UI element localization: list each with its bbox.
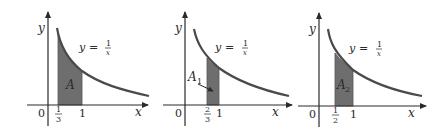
svg-text:x: x [106, 49, 110, 57]
svg-text:1: 1 [243, 39, 248, 48]
panel-1: y x 0 1 3 1 A y = 1 x [27, 12, 149, 126]
y-axis-label: y [308, 22, 316, 36]
svg-text:y: y [78, 41, 86, 54]
svg-text:2: 2 [333, 116, 338, 125]
origin-label: 0 [38, 107, 45, 120]
origin-label: 0 [309, 108, 316, 121]
equation-label: y = 1 x [348, 40, 382, 58]
x-axis-label: x [272, 105, 279, 119]
region-label-a: A [65, 78, 75, 92]
panel-3: y x 0 1 2 1 A 2 y = 1 x [298, 13, 426, 127]
svg-text:A: A [187, 70, 197, 84]
svg-text:y: y [214, 41, 222, 54]
svg-text:y: y [348, 42, 356, 55]
svg-text:1: 1 [56, 105, 61, 114]
svg-text:1: 1 [333, 106, 338, 115]
svg-text:x: x [377, 50, 381, 58]
svg-text:3: 3 [56, 115, 61, 124]
svg-text:3: 3 [205, 115, 210, 124]
origin-label: 0 [175, 107, 182, 120]
tick-one-label: 1 [79, 107, 86, 120]
svg-text:2: 2 [205, 105, 210, 114]
svg-text:=: = [359, 42, 368, 55]
svg-text:=: = [89, 41, 98, 54]
tick-fraction-label: 1 2 [332, 106, 339, 125]
tick-fraction-label: 2 3 [204, 105, 211, 124]
tick-one-label: 1 [216, 107, 223, 120]
x-axis-label: x [135, 105, 142, 119]
region-label-a1: A 1 [187, 70, 202, 86]
y-axis-label: y [174, 21, 182, 35]
svg-text:2: 2 [345, 85, 350, 94]
svg-text:1: 1 [106, 39, 111, 48]
panel-2: y x 0 2 3 1 A 1 y = 1 x [163, 12, 292, 126]
tick-one-label: 1 [350, 108, 357, 121]
svg-text:x: x [243, 49, 247, 57]
y-axis-label: y [37, 21, 45, 35]
tick-fraction-label: 1 3 [55, 105, 62, 124]
equation-label: y = 1 x [214, 39, 248, 57]
svg-text:1: 1 [377, 40, 382, 49]
x-axis-label: x [408, 106, 415, 120]
figure: y x 0 1 3 1 A y = 1 x y x 0 2 3 [0, 0, 445, 135]
equation-label: y = 1 x [78, 39, 111, 57]
svg-text:=: = [225, 41, 234, 54]
